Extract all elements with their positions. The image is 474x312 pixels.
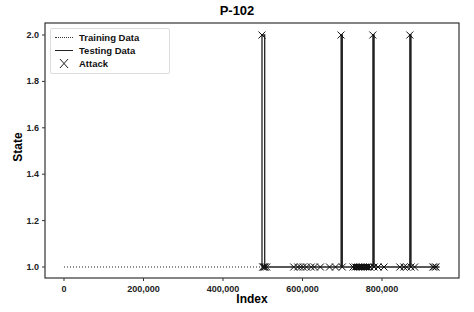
y-tick-label: 1.2	[26, 216, 39, 226]
y-tick-label: 1.4	[26, 169, 39, 179]
legend-item-training: Training Data	[51, 31, 169, 44]
x-marker-icon	[54, 57, 74, 70]
y-tick-label: 1.0	[26, 262, 39, 272]
x-axis-label: Index	[0, 292, 474, 306]
legend: Training Data Testing Data Attack	[50, 28, 170, 74]
y-tick-label: 1.8	[26, 76, 39, 86]
y-tick-label: 2.0	[26, 30, 39, 40]
solid-line-icon	[55, 50, 73, 51]
attack-marker-cluster	[353, 264, 370, 270]
y-axis-label: State	[11, 127, 25, 167]
legend-item-testing: Testing Data	[51, 44, 169, 57]
testing-data-line	[262, 35, 440, 267]
y-tick-label: 1.6	[26, 123, 39, 133]
legend-item-attack: Attack	[51, 57, 169, 70]
dotted-line-icon	[55, 37, 73, 38]
